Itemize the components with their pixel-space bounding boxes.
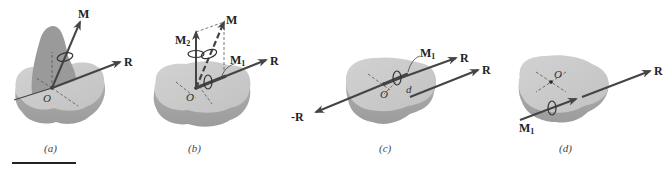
moment-label: M [226,13,237,27]
panel-d: O R M1 (d) [519,55,663,155]
panel-a: M R O (a) [14,7,133,155]
panel-c: M1 R R -R O d (c) [291,46,491,155]
resultant-label-right: R [482,63,491,77]
resultant-label: R [270,54,279,68]
resultant-label-top: R [460,51,469,65]
moment1-label: M1 [230,53,245,68]
resultant-label: R [124,55,133,69]
negative-resultant-label: -R [291,110,304,124]
resultant-label: R [654,64,663,78]
moment-label: M [78,7,89,21]
caption-c: (c) [379,142,392,155]
origin-label: O [43,92,51,104]
caption-d: (d) [559,142,572,155]
panel-b: M M2 M1 R O (b) [154,13,279,155]
origin-label: O [554,68,562,80]
caption-b: (b) [188,142,201,155]
figure-canvas: M R O (a) M M2 M1 R O (b) [0,0,671,169]
moment1-label: M1 [519,121,534,136]
moment-rotation-icon [200,48,218,61]
caption-a: (a) [44,142,57,155]
footnote-rule [12,162,76,164]
distance-label: d [406,83,412,95]
moment2-label: M2 [175,33,190,48]
moment1-label: M1 [420,46,435,61]
origin-label: O [380,88,388,100]
origin-label: O [186,91,194,103]
